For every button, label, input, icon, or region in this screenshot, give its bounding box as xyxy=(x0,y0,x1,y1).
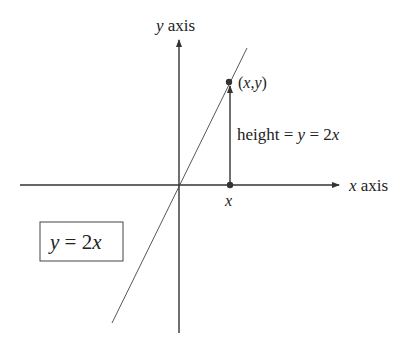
equation-box: y = 2x xyxy=(40,222,123,261)
y-axis-label: y axis xyxy=(154,16,195,35)
x-axis-label: x axis xyxy=(348,176,388,195)
point-label: (x,y) xyxy=(238,74,267,92)
x-point xyxy=(227,182,233,188)
xy-point xyxy=(226,79,232,85)
equation-label: y = 2x xyxy=(48,230,102,254)
linear-function-diagram: y axis x axis (x,y) height = y = 2x x y … xyxy=(0,0,413,350)
height-label: height = y = 2x xyxy=(237,125,340,144)
x-tick-label: x xyxy=(224,192,232,209)
